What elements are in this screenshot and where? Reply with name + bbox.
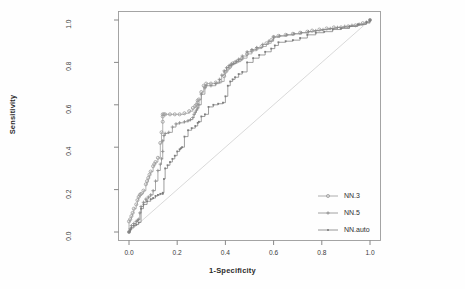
data-point-1-14 xyxy=(154,179,157,182)
data-point-2-5 xyxy=(138,222,140,224)
data-point-2-4 xyxy=(135,224,137,226)
data-point-2-47 xyxy=(258,54,260,56)
data-point-2-33 xyxy=(204,113,206,115)
data-point-1-2 xyxy=(130,224,133,227)
data-point-2-51 xyxy=(278,41,280,43)
data-point-2-44 xyxy=(241,71,243,73)
data-point-2-38 xyxy=(225,95,227,97)
data-point-2-10 xyxy=(152,197,154,199)
data-point-2-17 xyxy=(164,168,166,170)
data-point-2-41 xyxy=(232,78,234,80)
data-point-2-31 xyxy=(198,121,200,123)
data-point-1-15 xyxy=(156,169,159,172)
data-point-2-18 xyxy=(167,164,169,166)
y-tick-label-2: 0.4 xyxy=(65,147,72,177)
data-point-2-55 xyxy=(306,34,308,36)
data-point-2-29 xyxy=(194,125,196,127)
y-tick-label-4: 0.8 xyxy=(65,62,72,92)
data-point-2-40 xyxy=(229,81,231,83)
y-tick-label-5: 1.0 xyxy=(65,20,72,50)
data-point-2-lg xyxy=(327,229,329,231)
data-point-1-13 xyxy=(151,189,154,192)
y-tick-label-0: 0.0 xyxy=(65,232,72,262)
data-point-2-54 xyxy=(299,37,301,39)
data-point-2-21 xyxy=(174,155,176,157)
data-point-1-3 xyxy=(132,222,135,225)
data-point-2-20 xyxy=(171,158,173,160)
data-point-2-0 xyxy=(128,231,130,233)
data-point-1-9 xyxy=(142,201,145,204)
data-point-2-3 xyxy=(133,225,135,227)
data-point-2-52 xyxy=(285,40,287,42)
data-point-2-16 xyxy=(163,178,165,180)
data-point-1-12 xyxy=(149,193,152,196)
data-point-2-46 xyxy=(252,57,254,59)
data-point-2-43 xyxy=(238,73,240,75)
data-point-2-63 xyxy=(369,19,371,21)
data-point-2-57 xyxy=(323,31,325,33)
x-tick-label-1: 0.2 xyxy=(173,249,182,256)
data-point-2-2 xyxy=(131,227,133,229)
data-point-2-19 xyxy=(169,161,171,163)
data-point-2-59 xyxy=(340,28,342,30)
data-point-2-7 xyxy=(143,204,145,206)
data-point-2-8 xyxy=(146,200,148,202)
data-point-1-18 xyxy=(161,150,164,153)
data-point-2-49 xyxy=(270,48,272,50)
data-point-2-48 xyxy=(264,51,266,53)
data-point-2-13 xyxy=(159,193,161,195)
x-tick-label-4: 0.8 xyxy=(317,249,326,256)
y-axis-title: Sensitivity xyxy=(8,79,17,151)
data-point-2-62 xyxy=(365,21,367,23)
data-point-2-28 xyxy=(191,127,193,129)
data-point-2-60 xyxy=(349,25,351,27)
data-point-2-36 xyxy=(217,103,219,105)
legend-marker-2 xyxy=(317,225,339,235)
x-tick-label-5: 1.0 xyxy=(365,249,374,256)
data-point-2-9 xyxy=(150,198,152,200)
data-point-2-58 xyxy=(332,29,334,31)
y-tick-label-3: 0.6 xyxy=(65,104,72,134)
data-point-1-8 xyxy=(139,205,142,208)
data-point-2-50 xyxy=(274,45,276,47)
data-point-2-12 xyxy=(157,194,159,196)
legend-marker-1 xyxy=(317,208,339,218)
y-tick-label-1: 0.2 xyxy=(65,189,72,219)
data-point-1-53 xyxy=(261,43,264,46)
legend-marker-0 xyxy=(317,191,339,201)
data-point-2-34 xyxy=(208,106,210,108)
data-point-1-11 xyxy=(147,195,150,198)
data-point-2-53 xyxy=(292,39,294,41)
data-point-2-39 xyxy=(227,85,229,87)
data-point-1-23 xyxy=(171,125,174,128)
roc-chart-figure: 1-Specificity Sensitivity 0.00.20.40.60.… xyxy=(0,0,465,289)
data-point-2-27 xyxy=(187,129,189,131)
data-point-2-11 xyxy=(155,195,157,197)
legend-label-2: NN.auto xyxy=(344,226,370,233)
data-point-2-15 xyxy=(162,192,164,194)
data-point-2-61 xyxy=(357,23,359,25)
data-point-1-40 xyxy=(218,78,221,81)
data-point-2-22 xyxy=(176,151,178,153)
data-point-1-24 xyxy=(174,122,177,125)
data-point-1-10 xyxy=(144,197,147,200)
data-point-2-35 xyxy=(212,104,214,106)
legend-label-0: NN.3 xyxy=(344,192,360,199)
data-point-2-45 xyxy=(246,62,248,64)
data-point-2-1 xyxy=(129,229,131,231)
data-point-1-lg xyxy=(326,211,329,214)
data-point-2-26 xyxy=(184,136,186,138)
data-point-2-32 xyxy=(200,116,202,118)
x-tick-label-0: 0.0 xyxy=(124,249,133,256)
data-point-2-37 xyxy=(222,102,224,104)
x-tick-label-2: 0.4 xyxy=(221,249,230,256)
data-point-2-56 xyxy=(315,32,317,34)
data-point-2-6 xyxy=(140,208,142,210)
x-tick-label-3: 0.6 xyxy=(269,249,278,256)
data-point-2-42 xyxy=(234,76,236,78)
legend-label-1: NN.5 xyxy=(344,209,360,216)
data-point-2-25 xyxy=(181,146,183,148)
x-axis-title: 1-Specificity xyxy=(0,266,465,275)
